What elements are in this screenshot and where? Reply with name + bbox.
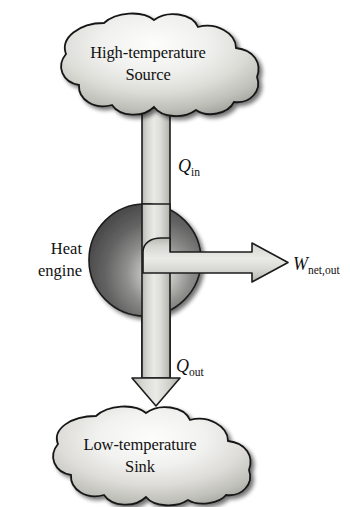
sink-label-line2: Sink: [125, 457, 156, 476]
q-out-subscript: out: [189, 366, 205, 378]
heat-engine-label-line2: engine: [38, 261, 82, 280]
source-label-line1: High-temperature: [90, 43, 206, 62]
sink-label-line1: Low-temperature: [83, 435, 196, 454]
heat-engine-label-line1: Heat: [51, 239, 83, 258]
heat-engine-diagram: High-temperature Source Low-temperature …: [0, 0, 350, 507]
q-out-symbol: Q: [176, 356, 189, 376]
heat-engine-schematic: High-temperature Source Low-temperature …: [0, 0, 350, 507]
vertical-shaft-over-sphere: [142, 204, 170, 378]
w-net-out-subscript: net,out: [308, 264, 340, 277]
q-in-symbol: Q: [178, 156, 191, 176]
source-label-line2: Source: [125, 65, 170, 84]
q-in-subscript: in: [191, 166, 200, 178]
